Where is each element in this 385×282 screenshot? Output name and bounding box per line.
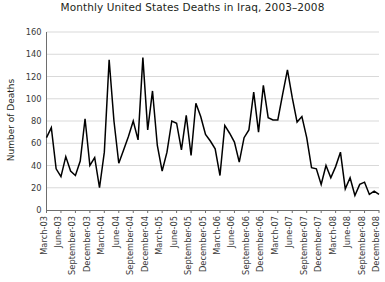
y-axis-title: Number of Deaths (6, 78, 16, 161)
x-tick-label: December-07 (313, 216, 323, 272)
chart-page: Monthly United States Deaths in Iraq, 20… (0, 0, 385, 282)
x-tick-label: September-06 (241, 216, 251, 275)
x-tick-label: September-07 (299, 216, 309, 275)
y-tick-label: 60 (31, 138, 42, 148)
x-tick-label: June-06 (226, 216, 236, 249)
x-tick-label: March-05 (154, 216, 164, 255)
y-tick-label: 20 (31, 183, 42, 193)
x-tick-label: December-05 (198, 216, 208, 272)
x-tick-label: June-05 (169, 216, 179, 249)
y-tick-label: 80 (31, 116, 42, 126)
x-tick-label: March-08 (328, 216, 338, 255)
plot-area: 020406080100120140160 March-03June-03Sep… (0, 0, 385, 282)
y-axis-tick-labels: 020406080100120140160 (26, 27, 42, 215)
x-tick-label: September-05 (183, 216, 193, 275)
y-tick-label: 100 (26, 94, 42, 104)
data-series-line (47, 58, 380, 196)
x-tick-label: June-07 (284, 216, 294, 249)
y-tick-label: 40 (31, 161, 42, 171)
x-tick-label: September-03 (67, 216, 77, 275)
y-tick-label: 160 (26, 27, 42, 37)
chart-svg: 020406080100120140160 March-03June-03Sep… (0, 0, 385, 282)
x-tick-label: December-06 (255, 216, 265, 272)
x-tick-label: September-04 (125, 216, 135, 275)
y-tick-label: 120 (26, 72, 42, 82)
x-tick-label: March-06 (212, 216, 222, 255)
y-tick-label: 0 (36, 205, 41, 215)
x-tick-label: June-08 (342, 216, 352, 249)
x-tick-label: December-03 (82, 216, 92, 272)
x-tick-label: September-08 (357, 216, 367, 275)
y-tick-label: 140 (26, 49, 42, 59)
x-tick-label: March-04 (96, 216, 106, 255)
x-tick-label: June-04 (111, 216, 121, 249)
x-tick-label: March-03 (39, 216, 49, 255)
x-tick-label: December-08 (371, 216, 381, 272)
x-axis-tick-labels: March-03June-03September-03December-03Ma… (39, 210, 382, 275)
x-tick-label: June-03 (53, 216, 63, 249)
x-tick-label: December-04 (140, 216, 150, 272)
x-tick-label: March-07 (270, 216, 280, 255)
